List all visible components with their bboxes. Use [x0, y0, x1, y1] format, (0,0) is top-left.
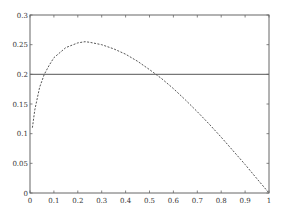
- line-chart: 00.10.20.30.40.50.60.70.80.9100.050.10.1…: [0, 0, 284, 213]
- x-tick-label: 0.4: [120, 197, 132, 205]
- x-tick-label: 1: [267, 197, 271, 205]
- x-tick-label: 0.1: [48, 197, 59, 205]
- x-tick-label: 0.9: [240, 197, 251, 205]
- y-tick-label: 0.15: [12, 101, 28, 109]
- plot-frame: [30, 15, 269, 193]
- y-tick-label: 0.25: [12, 41, 28, 49]
- x-tick-label: 0.2: [72, 197, 83, 205]
- data-series: [30, 42, 269, 193]
- y-tick-label: 0.2: [17, 71, 28, 79]
- y-tick-label: 0.1: [17, 130, 28, 138]
- x-tick-label: 0.7: [192, 197, 203, 205]
- x-tick-label: 0.3: [96, 197, 107, 205]
- y-tick-label: 0.05: [12, 160, 28, 168]
- y-tick-label: 0.3: [17, 12, 28, 20]
- series-curve: [32, 42, 269, 193]
- y-tick-label: 0: [24, 190, 28, 198]
- x-tick-label: 0.8: [216, 197, 227, 205]
- axes: 00.10.20.30.40.50.60.70.80.9100.050.10.1…: [12, 12, 271, 206]
- x-tick-label: 0: [28, 197, 32, 205]
- x-tick-label: 0.6: [168, 197, 180, 205]
- x-tick-label: 0.5: [144, 197, 155, 205]
